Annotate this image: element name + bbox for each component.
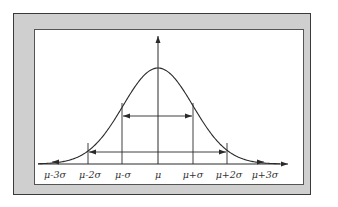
label-mu: μ xyxy=(155,169,161,180)
normal-distribution-diagram: μ-3σ μ-2σ μ-σ μ μ+σ μ+2σ μ+3σ xyxy=(0,0,338,207)
label-mu-plus-2sigma: μ+2σ xyxy=(216,169,243,180)
label-mu-minus-2sigma: μ-2σ xyxy=(79,169,101,180)
label-mu-minus-3sigma: μ-3σ xyxy=(44,169,66,180)
label-mu-plus-3sigma: μ+3σ xyxy=(252,169,279,180)
label-mu-plus-sigma: μ+σ xyxy=(183,169,204,180)
label-mu-minus-sigma: μ-σ xyxy=(115,169,131,180)
